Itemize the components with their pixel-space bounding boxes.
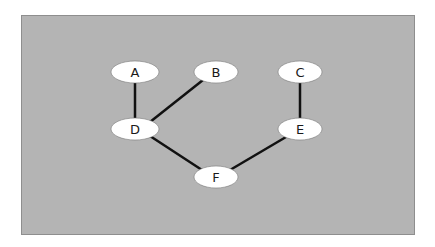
node-d-label: D	[130, 122, 140, 137]
node-e[interactable]: E	[278, 118, 322, 140]
edge-d-f	[150, 136, 202, 170]
node-a-label: A	[131, 65, 140, 80]
edges	[135, 80, 300, 170]
edge-b-d	[150, 80, 203, 122]
node-b[interactable]: B	[194, 61, 238, 83]
node-c[interactable]: C	[278, 61, 322, 83]
node-b-label: B	[212, 65, 221, 80]
node-f[interactable]: F	[194, 166, 238, 188]
node-a[interactable]: A	[111, 61, 159, 83]
edge-e-f	[230, 137, 286, 170]
nodes: A B C D E F	[111, 61, 322, 188]
node-d[interactable]: D	[111, 118, 159, 140]
node-f-label: F	[212, 170, 219, 185]
graph-canvas: A B C D E F	[0, 0, 435, 247]
node-e-label: E	[296, 122, 304, 137]
node-c-label: C	[295, 65, 304, 80]
